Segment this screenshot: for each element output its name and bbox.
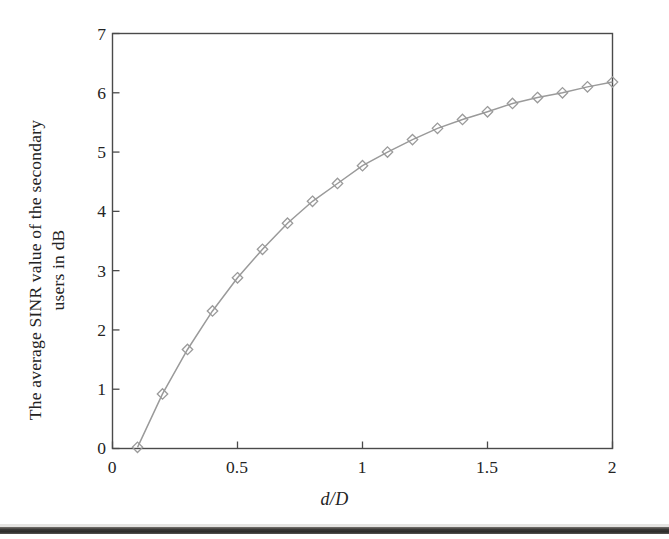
- axis-ticks: [113, 34, 613, 449]
- series-line: [138, 82, 613, 447]
- scan-artifact-bar: [0, 527, 669, 534]
- axis-frame: [113, 34, 613, 449]
- plot-area: [0, 0, 669, 539]
- data-series: [132, 77, 617, 453]
- chart-figure: The average SINR value of the secondary …: [0, 0, 669, 539]
- data-series-layer: [132, 77, 617, 453]
- data-point-marker: [132, 442, 142, 452]
